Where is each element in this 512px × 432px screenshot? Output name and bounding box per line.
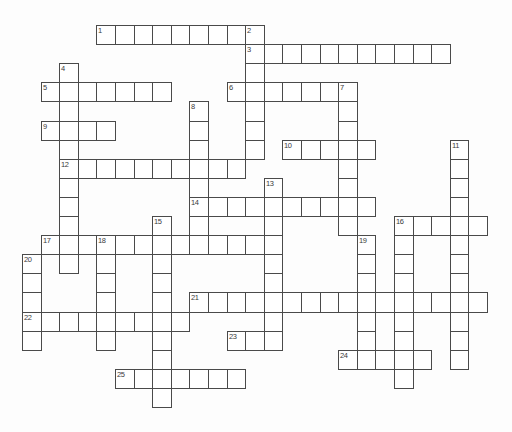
crossword-cell[interactable]	[115, 25, 135, 45]
crossword-cell[interactable]	[245, 235, 265, 255]
crossword-cell[interactable]: 22	[22, 312, 42, 332]
crossword-cell[interactable]	[227, 159, 246, 179]
crossword-cell[interactable]	[301, 44, 321, 64]
crossword-cell[interactable]	[450, 216, 469, 236]
crossword-cell[interactable]	[189, 159, 209, 179]
crossword-cell[interactable]	[450, 331, 469, 351]
crossword-cell[interactable]	[171, 312, 190, 332]
crossword-cell[interactable]	[320, 44, 339, 64]
crossword-cell[interactable]	[338, 178, 358, 198]
crossword-cell[interactable]	[357, 273, 376, 293]
crossword-cell[interactable]	[320, 140, 339, 160]
crossword-cell[interactable]	[413, 350, 432, 370]
crossword-cell[interactable]	[264, 197, 283, 217]
crossword-cell[interactable]	[357, 292, 376, 313]
crossword-cell[interactable]	[394, 292, 414, 313]
crossword-cell[interactable]	[96, 82, 116, 102]
crossword-cell[interactable]	[152, 350, 172, 370]
crossword-cell[interactable]: 15	[152, 216, 172, 236]
crossword-cell[interactable]	[152, 235, 172, 255]
crossword-cell[interactable]	[450, 235, 469, 255]
crossword-cell[interactable]	[227, 197, 246, 217]
crossword-cell[interactable]	[357, 312, 376, 332]
crossword-cell[interactable]	[245, 121, 265, 141]
crossword-cell[interactable]	[171, 25, 190, 45]
crossword-cell[interactable]	[301, 82, 321, 102]
crossword-cell[interactable]	[264, 292, 283, 313]
crossword-cell[interactable]	[282, 82, 302, 102]
crossword-cell[interactable]	[264, 331, 283, 351]
crossword-cell[interactable]	[264, 44, 283, 64]
crossword-cell[interactable]	[134, 235, 153, 255]
crossword-cell[interactable]	[245, 140, 265, 160]
crossword-cell[interactable]	[357, 254, 376, 274]
crossword-cell[interactable]	[134, 25, 153, 45]
crossword-cell[interactable]	[171, 235, 190, 255]
crossword-cell[interactable]	[375, 350, 395, 370]
crossword-cell[interactable]	[227, 235, 246, 255]
crossword-cell[interactable]: 3	[245, 44, 265, 64]
crossword-cell[interactable]	[22, 331, 42, 351]
crossword-cell[interactable]	[115, 159, 135, 179]
crossword-cell[interactable]	[450, 254, 469, 274]
crossword-cell[interactable]	[338, 159, 358, 179]
crossword-cell[interactable]	[152, 273, 172, 293]
crossword-cell[interactable]	[208, 369, 228, 389]
crossword-cell[interactable]	[59, 140, 79, 160]
crossword-cell[interactable]	[189, 121, 209, 141]
crossword-cell[interactable]	[375, 44, 395, 64]
crossword-cell[interactable]	[301, 140, 321, 160]
crossword-cell[interactable]	[264, 312, 283, 332]
crossword-cell[interactable]	[96, 159, 116, 179]
crossword-cell[interactable]	[264, 273, 283, 293]
crossword-cell[interactable]	[171, 369, 190, 389]
crossword-cell[interactable]	[264, 254, 283, 274]
crossword-cell[interactable]	[320, 292, 339, 313]
crossword-cell[interactable]	[227, 25, 246, 45]
crossword-cell[interactable]	[301, 197, 321, 217]
crossword-cell[interactable]	[375, 292, 395, 313]
crossword-cell[interactable]	[189, 140, 209, 160]
crossword-cell[interactable]	[320, 197, 339, 217]
crossword-cell[interactable]	[78, 159, 97, 179]
crossword-cell[interactable]	[450, 350, 469, 370]
crossword-cell[interactable]	[245, 82, 265, 102]
crossword-cell[interactable]	[59, 101, 79, 122]
crossword-cell[interactable]	[264, 82, 283, 102]
crossword-cell[interactable]	[338, 197, 358, 217]
crossword-cell[interactable]	[115, 235, 135, 255]
crossword-cell[interactable]	[22, 292, 42, 313]
crossword-cell[interactable]	[357, 331, 376, 351]
crossword-cell[interactable]	[134, 82, 153, 102]
crossword-cell[interactable]	[189, 235, 209, 255]
crossword-cell[interactable]	[134, 159, 153, 179]
crossword-cell[interactable]	[245, 101, 265, 122]
crossword-cell[interactable]	[59, 235, 79, 255]
crossword-cell[interactable]	[450, 197, 469, 217]
crossword-cell[interactable]	[320, 82, 339, 102]
crossword-cell[interactable]	[264, 216, 283, 236]
crossword-cell[interactable]	[134, 369, 153, 389]
crossword-cell[interactable]: 25	[115, 369, 135, 389]
crossword-cell[interactable]	[338, 216, 358, 236]
crossword-cell[interactable]: 20	[22, 254, 42, 274]
crossword-cell[interactable]	[431, 44, 451, 64]
crossword-cell[interactable]: 21	[189, 292, 209, 313]
crossword-cell[interactable]	[152, 388, 172, 408]
crossword-cell[interactable]: 4	[59, 63, 79, 83]
crossword-cell[interactable]	[394, 331, 414, 351]
crossword-cell[interactable]	[152, 254, 172, 274]
crossword-cell[interactable]	[22, 273, 42, 293]
crossword-cell[interactable]	[59, 216, 79, 236]
crossword-cell[interactable]	[301, 292, 321, 313]
crossword-cell[interactable]: 19	[357, 235, 376, 255]
crossword-cell[interactable]	[338, 140, 358, 160]
crossword-cell[interactable]	[59, 312, 79, 332]
crossword-cell[interactable]: 10	[282, 140, 302, 160]
crossword-cell[interactable]: 23	[227, 331, 246, 351]
crossword-cell[interactable]	[96, 312, 116, 332]
crossword-cell[interactable]	[338, 44, 358, 64]
crossword-cell[interactable]	[96, 292, 116, 313]
crossword-cell[interactable]	[96, 273, 116, 293]
crossword-cell[interactable]	[394, 369, 414, 389]
